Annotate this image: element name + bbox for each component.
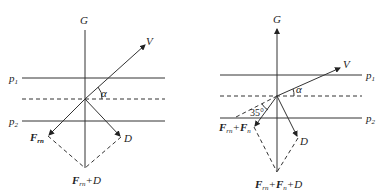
drag-label-right: D	[299, 135, 308, 147]
v-label-right: V	[343, 58, 351, 70]
resultant-label-right: Frn+Fn+D	[254, 178, 302, 192]
alpha-label-left: α	[101, 87, 107, 99]
force-diagrams: G p1 p2 V α Frn D Frn+D G p1 p2 V α 35	[0, 0, 386, 195]
v-label-left: V	[146, 35, 154, 47]
force-label-left: Frn	[29, 131, 44, 145]
g-label-left: G	[80, 14, 88, 26]
drag-arrow-left	[85, 99, 120, 136]
left-diagram: G p1 p2 V α Frn D Frn+D	[8, 14, 165, 188]
velocity-arrow-right	[277, 68, 340, 96]
force-label-right: Frn+Fn	[218, 121, 251, 135]
resultant-label-left: Frn+D	[71, 174, 101, 188]
force-arrow-left	[49, 99, 85, 135]
parallelogram-edge-1-left	[48, 136, 85, 168]
p2-label-left: p2	[8, 115, 19, 129]
parallelogram-edge-2-left	[85, 137, 121, 168]
p2-label-right: p2	[365, 112, 376, 126]
right-diagram: G p1 p2 V α 35° Frn+Fn D Frn+Fn+D	[218, 13, 376, 192]
g-label-right: G	[273, 13, 281, 25]
p1-label-left: p1	[8, 72, 18, 86]
p1-label-right: p1	[365, 69, 375, 83]
parallelogram-edge-2-right	[277, 138, 298, 172]
velocity-arrow-left	[85, 45, 145, 99]
angle-arc-right	[293, 89, 294, 96]
alpha-label-right: α	[296, 83, 302, 95]
parallelogram-edge-1-right	[254, 127, 277, 172]
drag-arrow-right	[277, 96, 297, 136]
drag-label-left: D	[123, 132, 132, 144]
